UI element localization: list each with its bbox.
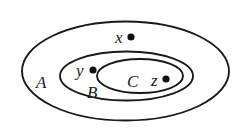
point-y-dot xyxy=(89,66,96,73)
set-a-ellipse xyxy=(22,22,229,121)
point-y-label: y xyxy=(74,61,84,80)
set-b-label: B xyxy=(87,83,98,102)
set-labels: A B C xyxy=(35,72,139,102)
point-x-dot xyxy=(127,33,134,40)
point-z-dot xyxy=(162,75,169,82)
nested-sets-diagram: A B C x y z xyxy=(0,0,249,136)
set-a-label: A xyxy=(35,73,47,92)
set-c-label: C xyxy=(127,72,139,91)
set-boundaries xyxy=(22,22,229,121)
element-points: x y z xyxy=(74,28,170,90)
set-c-ellipse xyxy=(97,59,183,93)
point-z-label: z xyxy=(150,71,158,90)
point-x-label: x xyxy=(114,28,123,47)
